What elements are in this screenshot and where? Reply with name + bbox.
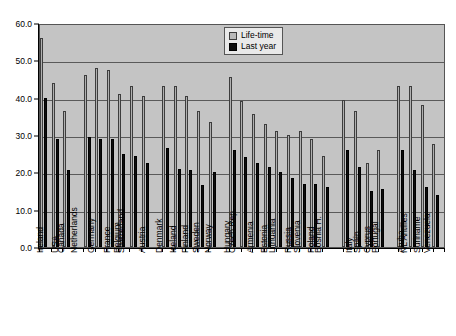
x-axis-label: Armenia: [252, 249, 264, 336]
bar-group: [162, 25, 220, 247]
x-axis-label: Austria: [141, 249, 153, 336]
x-axis-label-text: Slovenia: [292, 220, 301, 253]
x-axis-label-text: Denmark: [154, 219, 163, 253]
bar-pair: [287, 25, 299, 247]
x-axis-label: France: [106, 249, 118, 336]
y-axis-tick-label: 60.0: [15, 20, 32, 29]
x-axis-label: Spain: [354, 249, 366, 336]
bar-chart: 0.010.020.030.040.050.060.0 IrelandUSACa…: [0, 0, 456, 336]
label-group: HungaryCzech Rep.ArmeniaEstoniaLithuania…: [229, 249, 334, 336]
bar-pair: [275, 25, 287, 247]
bar-lifetime: [107, 70, 110, 247]
x-axis-label: Cyprus: [366, 249, 378, 336]
x-axis-label: Finland: [185, 249, 197, 336]
legend-entry: Last year: [229, 42, 276, 51]
x-axis-label-text: Switzerland: [117, 209, 126, 253]
bar-group: [229, 25, 334, 247]
x-axis-label-text: NL Antilles: [400, 213, 409, 253]
x-axis-tick-mark: [444, 249, 445, 252]
bar-pair: [432, 25, 444, 247]
x-axis-label: Denmark: [162, 249, 174, 336]
bar-lifetime: [432, 144, 435, 247]
bar-pair: [130, 25, 142, 247]
bar-pair: [377, 25, 389, 247]
group-label-spacer: [153, 249, 162, 336]
x-axis-tick-mark: [241, 249, 242, 252]
bar-pair: [84, 25, 96, 247]
legend-label: Last year: [241, 42, 276, 51]
x-axis-label-text: Armenia: [246, 221, 255, 253]
bar-pair: [95, 25, 107, 247]
x-axis-label-text: Venezuela: [423, 213, 432, 253]
x-axis-label: Norway: [208, 249, 220, 336]
x-axis-label: Estonia: [264, 249, 276, 336]
x-axis-label: Ireland: [39, 249, 51, 336]
group-spacer: [334, 25, 343, 247]
bar-lifetime: [354, 111, 357, 247]
bar-pair: [310, 25, 322, 247]
bar-pair: [342, 25, 354, 247]
y-axis: 0.010.020.030.040.050.060.0: [0, 0, 39, 248]
x-axis-label: Hungary: [229, 249, 241, 336]
x-axis-label: Suriname: [422, 249, 434, 336]
x-axis-label: Iceland: [173, 249, 185, 336]
x-axis-label: Switzerland: [129, 249, 141, 336]
label-group: ItalySpainCyprusPortugal: [343, 249, 390, 336]
bar-lifetime: [130, 86, 133, 247]
x-axis-tick-mark: [83, 249, 84, 252]
bar-last-year: [436, 195, 439, 247]
x-axis-label-text: Austria: [138, 227, 147, 253]
bar-last-year: [213, 172, 216, 247]
bar-pair: [174, 25, 186, 247]
bar-pair: [185, 25, 197, 247]
bar-pair: [299, 25, 311, 247]
legend-swatch-lastyear: [229, 43, 237, 51]
legend-swatch-lifetime: [229, 32, 237, 40]
x-axis-label: Russia: [287, 249, 299, 336]
bar-lifetime: [40, 38, 43, 247]
x-axis-label: Netherlands: [83, 249, 95, 336]
x-axis-label: Portugal: [378, 249, 390, 336]
y-axis-tick-label: 30.0: [15, 132, 32, 141]
bar-group: [342, 25, 389, 247]
bar-lifetime: [240, 101, 243, 247]
x-axis-label-text: Czech Rep.: [228, 209, 237, 253]
x-axis-label: Germany: [95, 249, 107, 336]
x-axis-tick-mark: [129, 249, 130, 252]
x-axis-label-text: Netherlands: [70, 207, 79, 253]
x-axis-label: Czech Rep.: [241, 249, 253, 336]
x-axis-label: Lithuania: [276, 249, 288, 336]
bar-pair: [252, 25, 264, 247]
y-axis-tick-label: 10.0: [15, 206, 32, 215]
x-axis-label: USA: [51, 249, 63, 336]
x-axis-label: Canada: [62, 249, 74, 336]
x-axis-tick-mark: [433, 249, 434, 252]
x-axis-label: Venezuela: [433, 249, 445, 336]
x-axis-label: Sweden: [197, 249, 209, 336]
bar-pair: [322, 25, 334, 247]
bar-pair: [354, 25, 366, 247]
x-axis-label-text: Bosnia H.: [313, 216, 322, 253]
label-group: DenmarkIcelandFinlandSwedenNorway: [162, 249, 220, 336]
label-group: IrelandUSACanada: [39, 249, 74, 336]
x-axis-label: Slovenia: [299, 249, 311, 336]
bar-pair: [52, 25, 64, 247]
x-axis-label: Italy: [343, 249, 355, 336]
bar-last-year: [279, 172, 282, 247]
x-axis-label: Aruba: [398, 249, 410, 336]
bar-last-year: [326, 187, 329, 247]
bar-series-container: [40, 25, 444, 247]
bar-pair: [409, 25, 421, 247]
bar-last-year: [346, 150, 349, 247]
x-axis-label-text: Canada: [57, 223, 66, 253]
x-axis-label-text: Portugal: [372, 221, 381, 253]
x-axis-label: Poland: [310, 249, 322, 336]
x-axis-label-text: Suriname: [413, 217, 422, 253]
group-spacer: [153, 25, 162, 247]
y-axis-tick-label: 40.0: [15, 94, 32, 103]
legend: Life-timeLast year: [224, 27, 283, 55]
label-group: NetherlandsGermanyFranceBelgiumSwitzerla…: [83, 249, 153, 336]
group-label-spacer: [220, 249, 229, 336]
bar-pair: [209, 25, 221, 247]
x-axis-label-text: Sweden: [191, 222, 200, 253]
